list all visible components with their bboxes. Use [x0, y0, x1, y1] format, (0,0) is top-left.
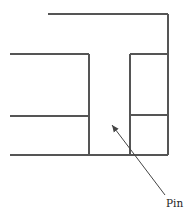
- pin-leader-arrow: [112, 125, 165, 195]
- pin-label: Pin: [166, 197, 183, 209]
- pin-joint-diagram: Pin: [0, 0, 186, 217]
- structure-lines: [10, 14, 168, 155]
